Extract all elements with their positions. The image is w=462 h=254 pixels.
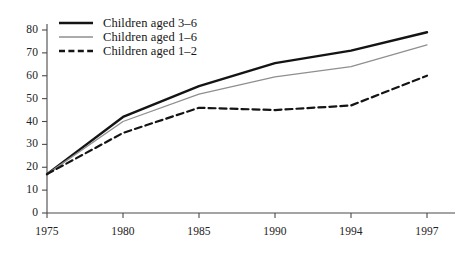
x-axis-tick-label: 1975 xyxy=(17,226,77,238)
y-axis-tick-label: 50 xyxy=(26,93,38,105)
legend-item-label: Children aged 1–6 xyxy=(103,31,197,44)
legend-item-label: Children aged 1–2 xyxy=(103,45,197,58)
legend-swatch-icon xyxy=(58,45,94,57)
x-axis-ticks xyxy=(47,213,427,218)
legend-swatch-icon xyxy=(58,17,94,29)
y-axis-tick-label: 0 xyxy=(32,207,38,219)
x-axis-tick-label: 1990 xyxy=(245,226,305,238)
x-axis-tick-label: 1994 xyxy=(321,226,381,238)
legend-item: Children aged 1–6 xyxy=(58,30,197,44)
legend-swatch-icon xyxy=(58,31,94,43)
x-axis-tick-label: 1997 xyxy=(397,226,457,238)
line-chart: 01020304050607080 1975198019851990199419… xyxy=(0,0,462,254)
legend-item: Children aged 1–2 xyxy=(58,44,197,58)
y-axis-tick-label: 60 xyxy=(26,70,38,82)
x-axis-tick-label: 1985 xyxy=(169,226,229,238)
y-axis-tick-label: 10 xyxy=(26,184,38,196)
data-series-line xyxy=(47,76,427,174)
y-axis-tick-label: 30 xyxy=(26,138,38,150)
legend-item-label: Children aged 3–6 xyxy=(103,17,197,30)
y-axis-ticks xyxy=(42,30,47,213)
chart-legend: Children aged 3–6 Children aged 1–6 Chil… xyxy=(58,16,197,58)
y-axis-tick-label: 40 xyxy=(26,116,38,128)
y-axis-tick-label: 20 xyxy=(26,161,38,173)
y-axis-tick-label: 80 xyxy=(26,24,38,36)
legend-item: Children aged 3–6 xyxy=(58,16,197,30)
x-axis-tick-label: 1980 xyxy=(93,226,153,238)
y-axis-tick-label: 70 xyxy=(26,47,38,59)
